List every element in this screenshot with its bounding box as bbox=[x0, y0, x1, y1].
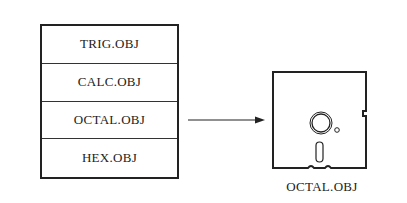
floppy-disk-icon bbox=[273, 72, 366, 168]
arrow-icon bbox=[188, 117, 265, 124]
diagram-graphics bbox=[0, 0, 407, 203]
disk-label: OCTAL.OBJ bbox=[280, 179, 364, 195]
